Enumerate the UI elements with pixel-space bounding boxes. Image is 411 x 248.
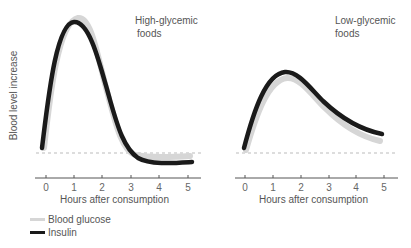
left-panel-title-line2: foods	[137, 28, 161, 40]
right-panel-title-line1: Low-glycemic	[335, 15, 396, 27]
right-panel-title-line2: foods	[335, 28, 359, 40]
right-tick-4: 4	[350, 182, 362, 193]
left-panel	[35, 18, 202, 178]
y-axis-label: Blood level increase	[8, 41, 19, 151]
legend-swatch-insulin	[30, 231, 45, 234]
left-tick-2: 2	[96, 182, 108, 193]
legend-swatch-glucose	[30, 218, 45, 221]
left-tick-5: 5	[182, 182, 194, 193]
right-x-axis-label: Hours after consumption	[259, 194, 368, 206]
right-tick-2: 2	[295, 182, 307, 193]
legend-item-insulin: Insulin	[30, 227, 77, 238]
right-tick-5: 5	[378, 182, 390, 193]
right-tick-3: 3	[323, 182, 335, 193]
left-x-axis-label: Hours after consumption	[60, 194, 169, 206]
insulin-curve-high	[42, 22, 192, 163]
legend-item-glucose: Blood glucose	[30, 214, 111, 225]
right-tick-1: 1	[267, 182, 279, 193]
legend-label-glucose: Blood glucose	[48, 214, 111, 225]
left-tick-1: 1	[68, 182, 80, 193]
left-tick-3: 3	[125, 182, 137, 193]
left-panel-title-line1: High-glycemic	[135, 15, 198, 27]
right-panel	[235, 72, 398, 178]
legend-label-insulin: Insulin	[48, 227, 77, 238]
left-tick-4: 4	[153, 182, 165, 193]
right-tick-0: 0	[239, 182, 251, 193]
left-tick-0: 0	[40, 182, 52, 193]
glucose-curve-high	[44, 18, 190, 157]
